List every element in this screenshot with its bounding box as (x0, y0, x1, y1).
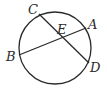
circle-chords-diagram: C E A B D (0, 0, 107, 93)
label-d: D (89, 60, 101, 75)
label-b: B (5, 49, 16, 64)
label-a: A (87, 17, 97, 32)
label-c: C (28, 2, 38, 17)
circle (19, 12, 91, 84)
label-e: E (56, 22, 67, 37)
